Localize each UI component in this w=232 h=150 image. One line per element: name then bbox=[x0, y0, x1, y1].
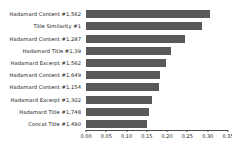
bar[interactable] bbox=[86, 96, 152, 104]
y-axis-label: Hadamard Content #1,649 bbox=[0, 69, 84, 81]
y-axis-label: Hadamard Content #1,154 bbox=[0, 81, 84, 93]
bar[interactable] bbox=[86, 59, 166, 67]
y-axis-label-text: Hadamard Content #1,562 bbox=[10, 11, 81, 17]
bar[interactable] bbox=[86, 47, 171, 55]
bar-rows bbox=[86, 8, 228, 130]
bar[interactable] bbox=[86, 71, 160, 79]
y-axis-label-text: Hadamard Content #1,649 bbox=[10, 72, 81, 78]
x-axis-tick-label: 0.25 bbox=[182, 133, 193, 139]
x-axis-tick: 0.25 bbox=[182, 130, 193, 139]
y-axis-label: Concat Title #1,490 bbox=[0, 118, 84, 130]
bar-row bbox=[86, 93, 228, 105]
bar-row bbox=[86, 81, 228, 93]
bar[interactable] bbox=[86, 83, 159, 91]
bar[interactable] bbox=[86, 108, 149, 116]
x-axis-tick-label: 0.30 bbox=[202, 133, 213, 139]
bar-row bbox=[86, 106, 228, 118]
y-axis-label: Hadamard Excerpt #1,302 bbox=[0, 93, 84, 105]
x-axis-tick-mark bbox=[126, 130, 127, 132]
y-axis-label-text: Hadamard Excerpt #1,302 bbox=[10, 97, 81, 103]
x-axis-tick-mark bbox=[167, 130, 168, 132]
x-axis-tick-mark bbox=[85, 130, 86, 132]
y-axis-label: Hadamard Content #1,287 bbox=[0, 32, 84, 44]
x-axis-tick: 0.30 bbox=[202, 130, 213, 139]
x-axis-tick-label: 0.35 bbox=[222, 133, 232, 139]
x-axis-tick-label: 0.05 bbox=[101, 133, 112, 139]
y-axis-label: Hadamard Excerpt #1,562 bbox=[0, 57, 84, 69]
bar[interactable] bbox=[86, 22, 202, 30]
y-axis-label: Hadamard Content #1,562 bbox=[0, 8, 84, 20]
y-axis-label-text: Hadamard Content #1,287 bbox=[10, 36, 81, 42]
y-axis-label: Hadamard Title #1,39 bbox=[0, 45, 84, 57]
x-axis-ticks: 0.000.050.100.150.200.250.300.35 bbox=[86, 130, 228, 146]
y-axis-label: Hadamard Title #1,748 bbox=[0, 106, 84, 118]
x-axis-tick: 0.05 bbox=[101, 130, 112, 139]
bar-row bbox=[86, 45, 228, 57]
x-axis-tick-label: 0.10 bbox=[121, 133, 132, 139]
x-axis-tick-mark bbox=[146, 130, 147, 132]
bar-row bbox=[86, 57, 228, 69]
y-axis-label: Title Similarity #1 bbox=[0, 20, 84, 32]
x-axis-tick-mark bbox=[106, 130, 107, 132]
bar-row bbox=[86, 20, 228, 32]
plot-area bbox=[86, 8, 228, 130]
x-axis-tick-label: 0.20 bbox=[162, 133, 173, 139]
y-axis-label-text: Hadamard Excerpt #1,562 bbox=[10, 60, 81, 66]
x-axis-tick: 0.10 bbox=[121, 130, 132, 139]
bar-row bbox=[86, 32, 228, 44]
y-axis-label-text: Title Similarity #1 bbox=[33, 23, 81, 29]
x-axis-tick-mark bbox=[227, 130, 228, 132]
bar-row bbox=[86, 69, 228, 81]
x-axis-tick: 0.15 bbox=[141, 130, 152, 139]
y-axis-label-text: Hadamard Title #1,39 bbox=[23, 48, 81, 54]
bar-chart: Hadamard Content #1,562Title Similarity … bbox=[0, 0, 232, 150]
x-axis-tick-label: 0.00 bbox=[80, 133, 91, 139]
y-axis-label-text: Hadamard Title #1,748 bbox=[19, 109, 81, 115]
x-axis-tick: 0.20 bbox=[162, 130, 173, 139]
bar[interactable] bbox=[86, 10, 210, 18]
bar[interactable] bbox=[86, 35, 185, 43]
x-axis-tick-mark bbox=[207, 130, 208, 132]
x-axis-tick-label: 0.15 bbox=[141, 133, 152, 139]
x-axis-tick: 0.00 bbox=[80, 130, 91, 139]
y-axis-label-text: Concat Title #1,490 bbox=[28, 121, 81, 127]
y-axis-labels: Hadamard Content #1,562Title Similarity … bbox=[0, 8, 84, 130]
bar-row bbox=[86, 118, 228, 130]
bar-row bbox=[86, 8, 228, 20]
x-axis-tick-mark bbox=[187, 130, 188, 132]
x-axis-tick: 0.35 bbox=[222, 130, 232, 139]
y-axis-label-text: Hadamard Content #1,154 bbox=[10, 84, 81, 90]
bar[interactable] bbox=[86, 120, 147, 128]
